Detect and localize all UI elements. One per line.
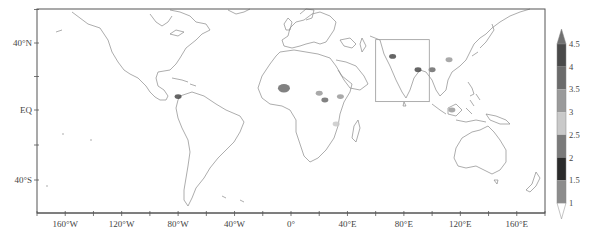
y-tick-label: 40°S: [14, 175, 32, 185]
south-america-coast: [176, 92, 244, 206]
shaded-data-regions: [175, 54, 456, 127]
sri-lanka-coast: [403, 102, 406, 106]
colorbar-label: 2.5: [569, 130, 580, 140]
coastlines: [46, 9, 540, 206]
shaded-region-south-china: [446, 57, 453, 62]
x-tick-label: 160°E: [505, 219, 528, 229]
greenland-coast: [228, 9, 250, 14]
x-tick-label: 40°W: [224, 219, 246, 229]
hudson-bay-coast: [150, 14, 172, 26]
shaded-region-east-africa: [337, 94, 344, 99]
new-zealand-coast: [526, 172, 540, 192]
world-map-figure: 160°W120°W80°W40°W0°40°E80°E120°E160°E 4…: [0, 0, 591, 241]
caspian-black-sea: [340, 38, 366, 52]
north-america-coast: [72, 10, 210, 100]
x-tick-label: 120°E: [449, 219, 472, 229]
x-tick-label: 80°W: [168, 219, 190, 229]
shaded-region-east-africa-rift: [333, 122, 340, 127]
pacific-islands: [46, 30, 244, 202]
shaded-region-central-america: [175, 94, 182, 99]
tasmania-coast: [494, 180, 498, 184]
colorbar-segment: [557, 180, 566, 203]
colorbar-segment: [557, 158, 566, 181]
y-tick-label: 40°N: [13, 38, 33, 48]
colorbar-label: 4: [569, 62, 574, 72]
uk-coast: [284, 18, 292, 30]
colorbar-under-triangle: [557, 203, 566, 219]
shaded-region-central-africa-2: [321, 98, 328, 103]
colorbar-segment: [557, 44, 566, 67]
arabia-coast: [336, 60, 368, 90]
madagascar-coast: [352, 120, 360, 142]
australia-coast: [454, 126, 506, 174]
colorbar-segment: [557, 135, 566, 158]
y-tick-label: EQ: [20, 105, 32, 115]
colorbar-label: 3: [569, 107, 573, 117]
x-tick-label: 160°W: [52, 219, 78, 229]
africa-coast: [258, 50, 352, 162]
indonesia-coast: [432, 94, 486, 122]
colorbar: 11.522.533.544.5: [557, 29, 580, 219]
japan-coast: [472, 24, 494, 56]
colorbar-segment: [557, 89, 566, 112]
x-tick-label: 40°E: [338, 219, 357, 229]
colorbar-label: 1: [569, 198, 573, 208]
shaded-region-borneo: [448, 108, 455, 113]
x-axis: 160°W120°W80°W40°W0°40°E80°E120°E160°E: [37, 211, 545, 229]
shaded-region-central-africa-1: [316, 91, 323, 96]
philippines-coast: [468, 82, 474, 96]
map-canvas: 160°W120°W80°W40°W0°40°E80°E120°E160°E 4…: [0, 0, 591, 241]
new-guinea-coast: [486, 114, 510, 124]
colorbar-over-triangle: [557, 29, 566, 44]
colorbar-segment: [557, 67, 566, 90]
colorbar-label: 2: [569, 153, 573, 163]
great-lakes: [170, 30, 184, 36]
shaded-region-pakistan-northwest-india: [389, 54, 396, 59]
colorbar-label: 1.5: [569, 175, 580, 185]
y-axis: 40°NEQ40°S: [13, 10, 39, 186]
colorbar-label: 3.5: [569, 84, 580, 94]
x-tick-label: 120°W: [109, 219, 135, 229]
shaded-region-bangladesh-northeast-india: [415, 67, 422, 72]
colorbar-segment: [557, 112, 566, 135]
x-tick-label: 80°E: [395, 219, 414, 229]
shaded-region-west-africa-sahel: [278, 84, 290, 92]
caribbean-islands: [172, 78, 196, 86]
x-tick-label: 0°: [287, 219, 296, 229]
asia-coast: [370, 9, 530, 98]
colorbar-label: 4.5: [569, 39, 580, 49]
